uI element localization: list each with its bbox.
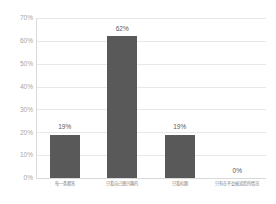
- bar-slot-1: 62%: [94, 18, 152, 178]
- x-category-label: 只有在不会被追踪的情况: [215, 182, 259, 187]
- bar-value-label: 19%: [173, 124, 186, 131]
- bar[interactable]: [107, 36, 137, 178]
- x-category-label: 每一条都答: [55, 182, 75, 187]
- y-tick-label: 40%: [3, 84, 33, 91]
- bar-value-label: 62%: [116, 26, 129, 33]
- y-tick-label: 10%: [3, 152, 33, 159]
- bar-slot-0: 19%: [36, 18, 94, 178]
- bar-value-label: 19%: [58, 124, 71, 131]
- x-category-label: 只看标题: [172, 182, 188, 187]
- y-tick-label: 20%: [3, 130, 33, 137]
- bar-value-label: 0%: [233, 168, 242, 175]
- y-tick-label: 70%: [3, 15, 33, 22]
- bar[interactable]: [165, 135, 195, 178]
- bar[interactable]: [50, 135, 80, 178]
- y-tick-label: 0%: [3, 175, 33, 182]
- y-tick-label: 50%: [3, 61, 33, 68]
- bar-slot-3: 0%: [209, 18, 267, 178]
- y-axis-tick-labels: 70% 60% 50% 40% 30% 20% 10% 0%: [0, 0, 33, 204]
- x-category-label: 只看自己感兴趣的: [106, 182, 138, 187]
- gridline-0-baseline: [36, 178, 266, 179]
- bar-chart: 70% 60% 50% 40% 30% 20% 10% 0% 19% 62% 1…: [0, 0, 276, 204]
- bars-layer: 19% 62% 19% 0%: [36, 18, 266, 178]
- x-axis-category-labels: 每一条都答 只看自己感兴趣的 只看标题 只有在不会被追踪的情况: [36, 182, 266, 202]
- y-tick-label: 30%: [3, 107, 33, 114]
- y-tick-label: 60%: [3, 38, 33, 45]
- bar-slot-2: 19%: [151, 18, 209, 178]
